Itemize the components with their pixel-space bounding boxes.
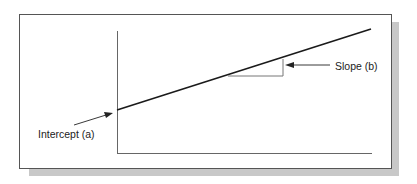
intercept-label: Intercept (a) [38,128,95,140]
slope-label: Slope (b) [335,60,378,72]
regression-diagram: Slope (b) Intercept (a) [0,0,417,184]
diagram-frame [20,15,392,169]
